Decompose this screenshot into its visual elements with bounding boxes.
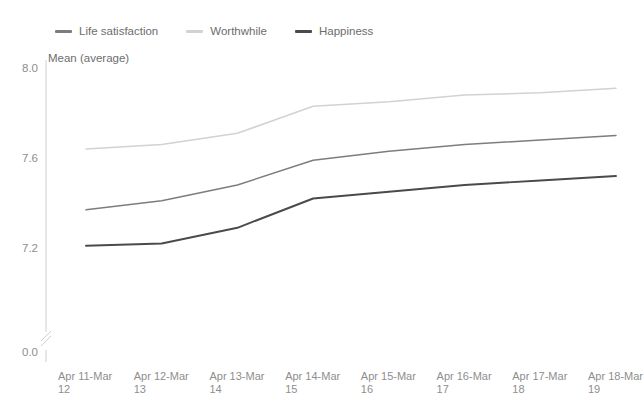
axis-break-icon [41,331,51,346]
series-line-life-satisfaction [86,136,616,210]
line-chart: Life satisfaction Worthwhile Happiness M… [0,0,644,417]
series-line-happiness [86,176,616,246]
plot-area [0,0,644,417]
